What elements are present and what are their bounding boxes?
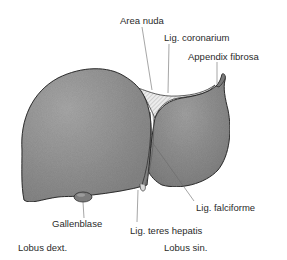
label-lig-coronarium: Lig. coronarium xyxy=(164,33,229,43)
leader-gallenblase xyxy=(83,202,84,218)
leader-lig-coronarium xyxy=(168,44,169,93)
liver-diagram: Area nuda Lig. coronarium Appendix fibro… xyxy=(0,0,287,260)
label-gallenblase: Gallenblase xyxy=(52,219,102,229)
label-lig-teres-hepatis: Lig. teres hepatis xyxy=(130,226,202,236)
label-lig-falciforme: Lig. falciforme xyxy=(196,203,255,213)
left-lobe xyxy=(148,75,230,187)
liver-illustration xyxy=(0,0,287,260)
label-appendix-fibrosa: Appendix fibrosa xyxy=(188,52,259,62)
leader-lig-teres xyxy=(137,190,138,222)
label-lobus-dext: Lobus dext. xyxy=(18,243,67,253)
ligamentum-teres xyxy=(140,184,145,191)
label-lobus-sin: Lobus sin. xyxy=(164,243,207,253)
leader-area-nuda xyxy=(142,27,152,90)
right-lobe xyxy=(22,69,151,202)
label-area-nuda: Area nuda xyxy=(120,16,164,26)
